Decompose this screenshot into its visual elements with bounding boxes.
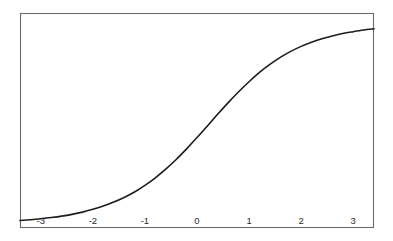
x-tick-label: 2 [298,215,303,226]
x-tick-label: -1 [141,215,149,226]
x-tick-label: 3 [351,215,356,226]
x-tick-label: 0 [194,215,199,226]
x-tick-label: 1 [246,215,251,226]
sigmoid-plot: -3-2-10123 [0,0,393,241]
x-tick-label: -3 [37,215,45,226]
figure-canvas: -3-2-10123 [0,0,393,241]
x-tick-label: -2 [89,215,97,226]
